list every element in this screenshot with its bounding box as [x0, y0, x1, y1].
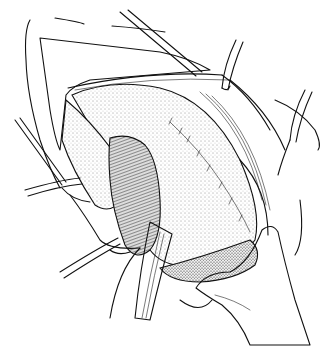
- retractor-right: [278, 90, 312, 175]
- illustration-drawing: [0, 0, 329, 353]
- forceps-left-lower: [60, 238, 130, 278]
- instrument-top-diagonal: [120, 10, 202, 76]
- retracted-organ: [62, 84, 257, 266]
- surgical-illustration: [0, 0, 329, 353]
